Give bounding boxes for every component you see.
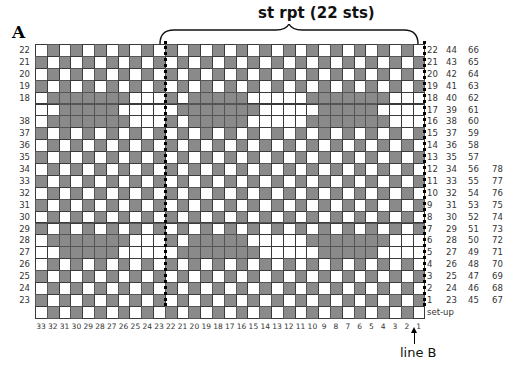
left-row-label: 22 — [10, 45, 30, 55]
right-row-label: 41 — [446, 81, 457, 91]
right-row-label: 25 — [446, 271, 457, 281]
right-row-label: 55 — [468, 176, 479, 186]
grid-cell — [413, 306, 426, 319]
column-label: 32 — [47, 322, 59, 331]
right-row-label: 31 — [446, 200, 457, 210]
right-row-label: 4 — [427, 259, 432, 269]
right-row-label: 51 — [468, 224, 479, 234]
right-row-label: 17 — [427, 105, 438, 115]
column-label: 6 — [354, 322, 366, 331]
right-row-label: 10 — [427, 188, 438, 198]
column-label: 3 — [389, 322, 401, 331]
right-row-label: 42 — [446, 69, 457, 79]
right-row-label: 19 — [427, 81, 438, 91]
right-row-label: 40 — [446, 93, 457, 103]
right-row-label: 24 — [446, 283, 457, 293]
repeat-title: st rpt (22 sts) — [258, 4, 375, 22]
left-row-label: 20 — [10, 69, 30, 79]
right-row-label: 39 — [446, 105, 457, 115]
left-row-label: 18 — [10, 93, 30, 103]
right-row-label: 35 — [446, 152, 457, 162]
right-row-label: 66 — [468, 45, 479, 55]
left-row-label: 35 — [10, 152, 30, 162]
left-row-label: 32 — [10, 188, 30, 198]
column-label: 8 — [330, 322, 342, 331]
right-row-label: 47 — [468, 271, 479, 281]
right-row-label: 34 — [446, 164, 457, 174]
repeat-brace-icon — [158, 24, 420, 46]
left-row-label: 19 — [10, 81, 30, 91]
left-row-label: 29 — [10, 224, 30, 234]
left-row-label: 30 — [10, 212, 30, 222]
right-row-label: 8 — [427, 212, 432, 222]
right-row-label: 48 — [468, 259, 479, 269]
right-row-label: 52 — [468, 212, 479, 222]
right-row-label: 27 — [446, 247, 457, 257]
right-row-label: 13 — [427, 152, 438, 162]
right-row-label: 57 — [468, 152, 479, 162]
right-row-label: 76 — [492, 188, 503, 198]
column-label: 14 — [259, 322, 271, 331]
right-row-label: 71 — [492, 247, 503, 257]
column-label: 20 — [188, 322, 200, 331]
left-row-label: 28 — [10, 235, 30, 245]
column-label: 22 — [165, 322, 177, 331]
right-row-label: 49 — [468, 247, 479, 257]
right-row-label: 46 — [468, 283, 479, 293]
left-row-label: 36 — [10, 140, 30, 150]
right-row-label: 21 — [427, 57, 438, 67]
left-row-label: 33 — [10, 176, 30, 186]
right-row-label: 78 — [492, 164, 503, 174]
right-row-label: 26 — [446, 259, 457, 269]
right-row-label: 44 — [446, 45, 457, 55]
column-label: 4 — [377, 322, 389, 331]
column-label: 31 — [59, 322, 71, 331]
right-row-label: 77 — [492, 176, 503, 186]
column-label: 21 — [177, 322, 189, 331]
right-row-label: 50 — [468, 235, 479, 245]
right-row-label: 60 — [468, 116, 479, 126]
left-row-label: 31 — [10, 200, 30, 210]
column-label: 12 — [283, 322, 295, 331]
column-label: 27 — [106, 322, 118, 331]
right-row-label: 6 — [427, 235, 432, 245]
right-row-label: 64 — [468, 69, 479, 79]
right-row-label: 43 — [446, 57, 457, 67]
right-row-label: 28 — [446, 235, 457, 245]
column-label: 18 — [212, 322, 224, 331]
right-row-label: 73 — [492, 224, 503, 234]
column-label: 13 — [271, 322, 283, 331]
left-row-label: 34 — [10, 164, 30, 174]
repeat-end-line — [423, 41, 426, 306]
left-row-label: 25 — [10, 271, 30, 281]
right-row-label: 54 — [468, 188, 479, 198]
right-row-label: 37 — [446, 128, 457, 138]
column-label: 16 — [236, 322, 248, 331]
right-row-label: 59 — [468, 128, 479, 138]
right-row-label: 70 — [492, 259, 503, 269]
setup-label: set-up — [427, 307, 454, 317]
column-label: 19 — [200, 322, 212, 331]
left-row-label: 21 — [10, 57, 30, 67]
right-row-label: 1 — [427, 295, 432, 305]
line-b-label: line B — [400, 345, 437, 360]
right-row-label: 23 — [446, 295, 457, 305]
column-label: 30 — [70, 322, 82, 331]
right-row-label: 2 — [427, 283, 432, 293]
right-row-label: 74 — [492, 212, 503, 222]
column-label: 26 — [118, 322, 130, 331]
column-label: 25 — [129, 322, 141, 331]
right-row-label: 63 — [468, 81, 479, 91]
left-row-label: 27 — [10, 247, 30, 257]
right-row-label: 18 — [427, 93, 438, 103]
left-row-label: 26 — [10, 259, 30, 269]
right-row-label: 38 — [446, 116, 457, 126]
right-row-label: 67 — [492, 295, 503, 305]
right-row-label: 12 — [427, 164, 438, 174]
line-b-arrowhead-icon — [411, 327, 417, 333]
right-row-label: 68 — [492, 283, 503, 293]
column-label: 15 — [247, 322, 259, 331]
left-row-label: 24 — [10, 283, 30, 293]
chart-label: A — [12, 22, 25, 42]
column-label: 17 — [224, 322, 236, 331]
